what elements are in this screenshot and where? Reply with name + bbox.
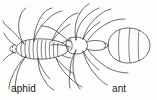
aphid-eye-left	[12, 46, 13, 47]
label-ant: ant	[112, 83, 126, 94]
aphid-eye-right	[12, 50, 13, 51]
label-aphid: aphid	[11, 83, 36, 94]
insect-comparison-figure: aphid ant	[0, 0, 157, 100]
